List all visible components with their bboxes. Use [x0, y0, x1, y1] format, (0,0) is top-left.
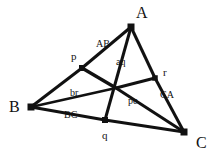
edge-label-BC: BC	[64, 110, 77, 120]
node-label-A: A	[136, 5, 148, 21]
node-marker-p	[79, 65, 85, 71]
node-label-C: C	[196, 135, 207, 151]
node-label-p: p	[71, 51, 77, 62]
edge-label-br: br	[70, 88, 78, 98]
node-marker-q	[102, 117, 108, 123]
node-marker-r	[152, 75, 158, 81]
node-label-q: q	[102, 130, 108, 141]
edge-label-AB: AB	[96, 39, 110, 49]
edge-p-center	[82, 68, 116, 88]
node-marker-C	[181, 129, 188, 136]
node-marker-A	[128, 24, 135, 31]
edge-center-r	[116, 78, 155, 88]
geometry-figure: ABaqbrBCpcCAABCpqr	[0, 0, 216, 158]
node-label-r: r	[163, 67, 167, 78]
diagram-canvas	[0, 0, 216, 158]
edge-label-pc: pc	[128, 96, 137, 106]
edge-label-aq: aq	[116, 57, 125, 67]
edge-label-CA: CA	[160, 90, 174, 100]
node-marker-B	[28, 104, 35, 111]
node-label-B: B	[9, 99, 20, 115]
edge-A-r	[131, 27, 155, 78]
